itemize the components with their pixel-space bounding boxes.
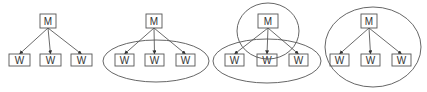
edge-arrow-m-to-w3 [268, 28, 299, 54]
edge-arrow-m-to-w2 [369, 28, 371, 54]
worker-label: W [15, 55, 25, 66]
worker-label: W [230, 55, 240, 66]
worker-node: W [257, 54, 277, 66]
edge-arrow-m-to-w1 [20, 28, 49, 54]
master-label: M [44, 16, 52, 27]
panel-4: MWWW [325, 7, 421, 87]
master-node: M [258, 14, 278, 28]
worker-node: W [225, 54, 244, 66]
edge-arrow-m-to-w2 [154, 28, 155, 54]
edge-arrow-m-to-w2 [48, 28, 51, 54]
worker-label: W [294, 55, 304, 66]
edge-arrow-m-to-w1 [235, 28, 269, 54]
worker-node: W [9, 54, 30, 66]
worker-label: W [335, 55, 345, 66]
worker-label: W [150, 55, 160, 66]
worker-label: W [397, 55, 407, 66]
panel-2: MWWW [103, 14, 209, 82]
worker-label: W [77, 55, 87, 66]
worker-node: W [115, 54, 134, 66]
edge-arrow-m-to-w3 [369, 28, 402, 54]
master-node: M [146, 14, 162, 28]
worker-node: W [71, 54, 92, 66]
master-label: M [150, 16, 158, 27]
worker-node: W [330, 54, 349, 66]
master-label: M [365, 16, 373, 27]
worker-label: W [46, 55, 56, 66]
worker-label: W [366, 55, 376, 66]
worker-label: W [120, 55, 130, 66]
worker-node: W [176, 54, 195, 66]
worker-label: W [181, 55, 191, 66]
worker-node: W [145, 54, 164, 66]
worker-label: W [262, 55, 272, 66]
worker-node: W [289, 54, 308, 66]
panel-1: MWWW [9, 14, 92, 66]
panels-group: MWWWMWWWMWWWMWWW [9, 3, 421, 87]
diagram-canvas: MWWWMWWWMWWWMWWW [0, 0, 427, 92]
edge-arrow-m-to-w1 [340, 28, 370, 54]
edge-arrow-m-to-w2 [267, 28, 268, 54]
master-label: M [264, 16, 272, 27]
edge-arrow-m-to-w3 [48, 28, 82, 54]
master-node: M [361, 14, 377, 28]
worker-node: W [361, 54, 380, 66]
master-node: M [40, 14, 56, 28]
worker-node: W [40, 54, 61, 66]
worker-node: W [392, 54, 411, 66]
panel-3: MWWW [213, 3, 321, 83]
